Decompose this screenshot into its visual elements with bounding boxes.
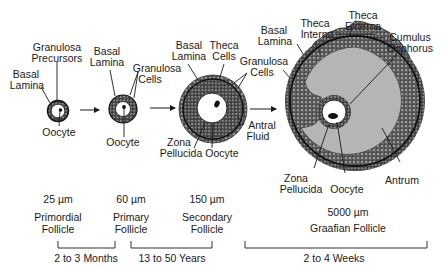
label-oocyte-graafian: Oocyte bbox=[330, 183, 363, 195]
bracket-13-to-50-years bbox=[131, 241, 212, 248]
size-primary: 60 µm bbox=[116, 193, 146, 205]
primordial-oocyte-body bbox=[51, 104, 65, 118]
duration-primordial-to-primary: 2 to 3 Months bbox=[54, 252, 118, 264]
label-basal-lamina-primary-2: Lamina bbox=[90, 56, 125, 68]
primary-oocyte-body bbox=[116, 102, 131, 117]
follicle-development-diagram: Granulosa Precursors Basal Lamina Oocyte… bbox=[0, 0, 444, 269]
label-antral-fluid-2: Fluid bbox=[247, 130, 270, 142]
name-primordial-1: Primordial bbox=[34, 211, 81, 223]
size-secondary: 150 µm bbox=[189, 193, 224, 205]
label-granulosa-precursors-2: Precursors bbox=[32, 52, 83, 64]
primordial-nucleus bbox=[59, 108, 63, 112]
label-theca-cells-secondary-2: Cells bbox=[212, 50, 235, 62]
name-primary-2: Follicle bbox=[115, 223, 148, 235]
graafian-nucleus bbox=[328, 113, 338, 119]
duration-secondary-to-graafian: 2 to 4 Weeks bbox=[303, 252, 364, 264]
label-antrum: Antrum bbox=[385, 174, 419, 186]
name-secondary-1: Secondary bbox=[182, 211, 233, 223]
bracket-2-to-4-weeks bbox=[245, 241, 427, 248]
label-zona-pellucida-secondary-2: Pellucida bbox=[160, 147, 203, 159]
name-secondary-2: Follicle bbox=[191, 223, 224, 235]
label-granulosa-cells-primary-2: Cells bbox=[138, 73, 161, 85]
label-oocyte-primordial: Oocyte bbox=[42, 126, 75, 138]
primordial-follicle bbox=[48, 101, 69, 122]
label-basal-lamina-primordial-2: Lamina bbox=[10, 79, 45, 91]
bracket-2-to-3-months bbox=[58, 241, 115, 248]
label-theca-externa-2: Externa bbox=[345, 20, 381, 32]
name-primary-1: Primary bbox=[113, 211, 150, 223]
graafian-zona-pellucida bbox=[322, 100, 346, 124]
label-basal-lamina-secondary-2: Lamina bbox=[172, 50, 207, 62]
name-graafian: Graafian Follicle bbox=[310, 222, 386, 234]
name-primordial-2: Follicle bbox=[42, 223, 75, 235]
label-oocyte-secondary: Oocyte bbox=[205, 147, 238, 159]
size-graafian: 5000 µm bbox=[327, 206, 368, 218]
duration-primary-to-secondary: 13 to 50 Years bbox=[138, 252, 205, 264]
label-oocyte-primary: Oocyte bbox=[106, 136, 139, 148]
secondary-zona-pellucida bbox=[197, 93, 227, 123]
label-cumulus-oophorus-2: Oophorus bbox=[387, 42, 433, 54]
label-zona-pellucida-graafian-2: Pellucida bbox=[280, 183, 323, 195]
label-theca-interna-2: Interna bbox=[301, 28, 334, 40]
primary-follicle bbox=[109, 95, 137, 123]
label-granulosa-cells-secondary-2: Cells bbox=[250, 66, 273, 78]
label-basal-lamina-graafian-2: Lamina bbox=[258, 35, 293, 47]
size-primordial: 25 µm bbox=[43, 193, 73, 205]
